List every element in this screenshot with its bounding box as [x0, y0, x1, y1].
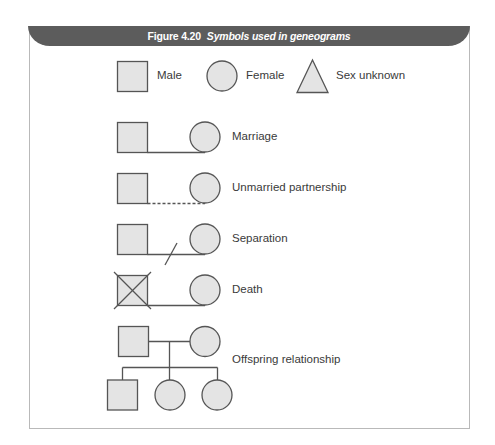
sex-unknown-symbol [297, 60, 328, 93]
unmarried-partnership-symbol [118, 173, 221, 204]
geneogram-diagram [0, 0, 495, 445]
legend-label-male: Male [157, 69, 182, 81]
offspring-symbol [108, 327, 233, 411]
label-death: Death [232, 283, 263, 295]
label-unmarried-partnership: Unmarried partnership [232, 181, 346, 193]
female-symbol [207, 61, 237, 91]
marriage-symbol [118, 122, 221, 153]
label-marriage: Marriage [232, 130, 277, 142]
label-separation: Separation [232, 232, 288, 244]
male-symbol [118, 62, 148, 92]
legend-label-sex-unknown: Sex unknown [336, 69, 405, 81]
death-symbol [114, 272, 220, 309]
label-offspring-relationship: Offspring relationship [232, 353, 340, 365]
separation-symbol [118, 224, 221, 265]
legend-label-female: Female [246, 69, 284, 81]
